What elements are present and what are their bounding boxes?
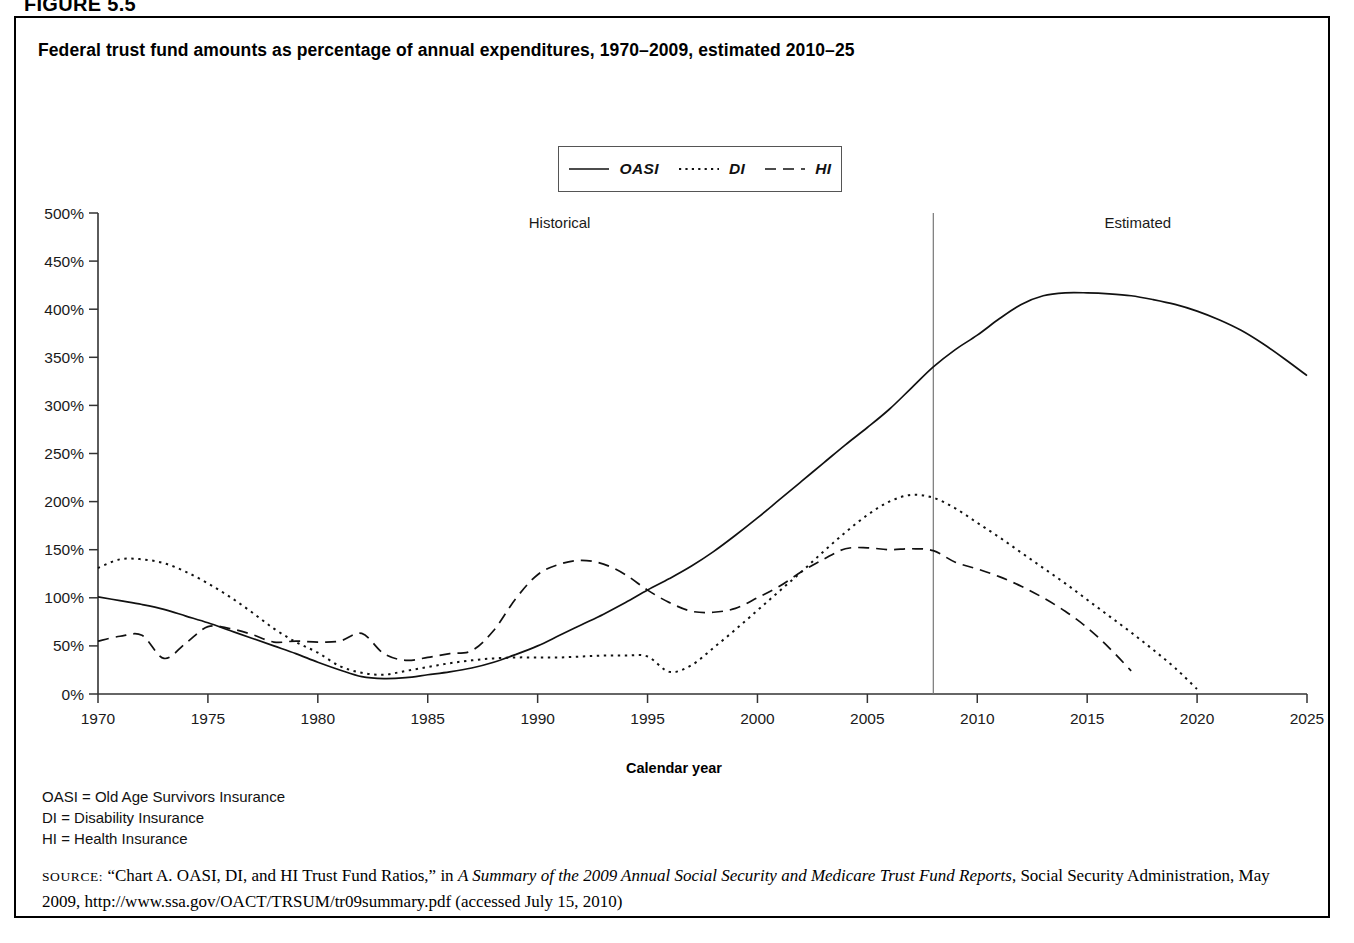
y-tick-label: 200% [44,493,84,510]
figure-page: FIGURE 5.5 Federal trust fund amounts as… [0,0,1354,943]
abbreviation-notes: OASI = Old Age Survivors Insurance DI = … [42,786,285,849]
x-tick-label: 2000 [740,710,775,727]
abbrev-di: DI = Disability Insurance [42,807,285,828]
y-tick-label: 400% [44,301,84,318]
x-tick-label: 1980 [301,710,336,727]
figure-frame: Federal trust fund amounts as percentage… [14,16,1330,918]
figure-number: FIGURE 5.5 [24,0,136,16]
x-tick-label: 2005 [850,710,884,727]
y-tick-label: 150% [44,541,84,558]
x-axis-title: Calendar year [16,760,1332,776]
y-tick-label: 300% [44,397,84,414]
y-tick-label: 350% [44,349,84,366]
x-tick-label: 2015 [1070,710,1104,727]
abbrev-hi: HI = Health Insurance [42,828,285,849]
source-italic-title: A Summary of the 2009 Annual Social Secu… [458,866,1012,885]
y-tick-label: 100% [44,589,84,606]
x-tick-label: 1970 [81,710,116,727]
historical-annotation: Historical [529,214,591,231]
x-tick-label: 1975 [191,710,225,727]
x-tick-label: 2010 [960,710,995,727]
estimated-annotation: Estimated [1104,214,1171,231]
y-tick-label: 50% [53,637,84,654]
trust-fund-line-chart: 0%50%100%150%200%250%300%350%400%450%500… [16,18,1332,920]
abbrev-oasi: OASI = Old Age Survivors Insurance [42,786,285,807]
x-tick-label: 2025 [1290,710,1324,727]
y-tick-label: 450% [44,253,84,270]
x-tick-label: 1995 [630,710,664,727]
y-tick-label: 250% [44,445,84,462]
x-tick-label: 1985 [410,710,444,727]
y-tick-label: 0% [62,686,85,703]
source-note: SOURCE: “Chart A. OASI, DI, and HI Trust… [42,863,1304,914]
y-tick-label: 500% [44,205,84,222]
source-label: SOURCE: [42,869,103,884]
source-text-1: “Chart A. OASI, DI, and HI Trust Fund Ra… [103,866,458,885]
x-tick-label: 2020 [1180,710,1215,727]
x-tick-label: 1990 [520,710,555,727]
series-line-oasi [98,293,1307,679]
